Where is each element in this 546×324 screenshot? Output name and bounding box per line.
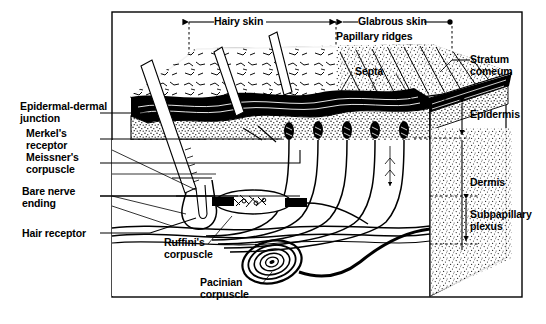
- label-pacinian-corpuscle: Pacinian corpuscle: [200, 276, 282, 300]
- label-dermis: Dermis: [470, 176, 505, 188]
- label-epidermis: Epidermis: [470, 108, 520, 120]
- label-glabrous-skin: Glabrous skin: [358, 15, 427, 27]
- label-bare-nerve-ending: Bare nerve ending: [22, 185, 114, 209]
- label-line-2: comeum: [470, 65, 513, 77]
- label-line-2: ending: [22, 197, 56, 209]
- label-line-1: Ruffini's: [164, 236, 205, 248]
- label-line-2: corpuscle: [200, 288, 249, 300]
- label-line-1: Stratum: [470, 53, 509, 65]
- label-line-2: corpuscle: [164, 248, 213, 260]
- label-merkels-receptor: Merkel's receptor: [26, 127, 114, 151]
- label-line-1: Pacinian: [200, 276, 242, 288]
- label-subpapillary-plexus: Subpapillary plexus: [470, 208, 546, 232]
- label-line-2: junction: [20, 112, 60, 124]
- label-hairy-skin: Hairy skin: [214, 15, 263, 27]
- label-line-1: Merkel's: [26, 127, 67, 139]
- label-line-1: Bare nerve: [22, 185, 75, 197]
- label-hair-receptor: Hair receptor: [22, 227, 86, 239]
- label-meissners-corpuscle: Meissner's corpuscle: [26, 151, 114, 175]
- label-septa: Septa: [355, 65, 383, 77]
- label-ruffinis-corpuscle: Ruffini's corpuscle: [164, 236, 242, 260]
- label-line-2: corpuscle: [26, 163, 75, 175]
- label-stratum-corneum: Stratum comeum: [470, 53, 540, 77]
- label-line-2: receptor: [26, 139, 67, 151]
- skin-cross-section-figure: Hairy skin Glabrous skin Papillary ridge…: [0, 0, 546, 324]
- label-papillary-ridges: Papillary ridges: [336, 30, 413, 42]
- label-line-1: Subpapillary: [470, 208, 532, 220]
- label-line-1: Epidermal-dermal: [20, 100, 107, 112]
- label-line-2: plexus: [470, 220, 503, 232]
- label-line-1: Meissner's: [26, 151, 79, 163]
- label-epidermal-dermal-junction: Epidermal-dermal junction: [20, 100, 115, 124]
